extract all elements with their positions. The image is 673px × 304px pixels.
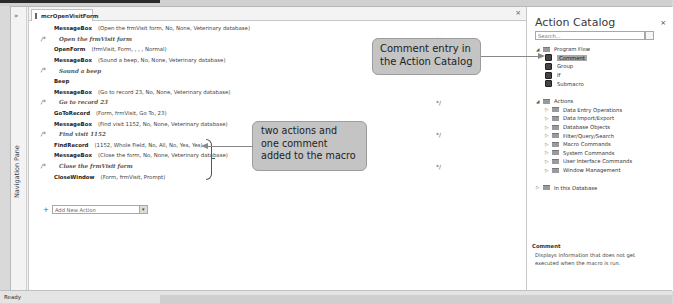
add-new-action-select[interactable]: Add New Action ▾ <box>52 205 148 214</box>
folder-icon <box>552 150 559 155</box>
chevron-down-icon[interactable]: ▾ <box>139 206 147 213</box>
tree-item-database-objects[interactable]: ▷Database Objects <box>536 123 671 132</box>
tree-label: User Interface Commands <box>563 158 632 164</box>
macro-action[interactable]: MessageBox(Open the frmVisit form, No, N… <box>29 23 526 34</box>
close-icon[interactable]: × <box>660 19 666 27</box>
action-icon <box>545 54 552 61</box>
bracket-tip <box>211 158 215 159</box>
folder-icon <box>552 168 559 173</box>
navigation-pane-label: Navigation Pane <box>13 122 27 222</box>
action-name: FindRecord <box>54 142 88 148</box>
tree-gap <box>536 174 671 183</box>
comment-text: Find visit 1152 <box>59 131 106 137</box>
macro-action[interactable]: CloseWindow(Form, frmVisit, Prompt) <box>29 171 526 182</box>
folder-icon <box>552 125 559 130</box>
macro-comment[interactable]: /*Go to record 23*/ <box>29 97 526 108</box>
macro-action[interactable]: Beep <box>29 76 526 87</box>
navigation-pane[interactable]: » Navigation Pane <box>11 7 29 291</box>
expand-nav-icon[interactable]: » <box>14 12 18 20</box>
status-text: Ready <box>4 294 21 300</box>
arrowhead-right <box>538 53 545 59</box>
tree-item-system-commands[interactable]: ▷System Commands <box>536 149 671 158</box>
collapsed-triangle-icon: ▷ <box>545 150 552 155</box>
status-bar: Ready <box>0 290 672 303</box>
ribbon-edge <box>0 0 160 3</box>
comment-text: Open the frmVisit form <box>59 36 132 42</box>
collapsed-triangle-icon: ▷ <box>545 116 552 121</box>
tree-group-in-this-database[interactable]: ▷In this Database <box>536 183 671 192</box>
tree-label: Program Flow <box>554 46 590 52</box>
tree-label: Filter/Query/Search <box>563 133 614 139</box>
tree-item-filter-query[interactable]: ▷Filter/Query/Search <box>536 131 671 140</box>
collapsed-triangle-icon: ▷ <box>545 133 552 138</box>
tree-item-comment[interactable]: Comment <box>536 54 671 63</box>
folder-icon <box>543 185 550 190</box>
comment-text: Sound a beep <box>59 68 101 74</box>
tree-label: Data Import/Export <box>563 115 614 121</box>
tree-item-submacro[interactable]: Submacro <box>536 79 671 88</box>
tree-label: Submacro <box>557 81 584 87</box>
callout-line-added <box>203 146 253 147</box>
folder-icon <box>552 142 559 147</box>
macro-action[interactable]: GoToRecord(Form, frmVisit, Go To, 23) <box>29 108 526 119</box>
comment-start: /* <box>41 98 46 105</box>
comment-start: /* <box>41 130 46 137</box>
tree-label: In this Database <box>554 185 597 191</box>
expanded-triangle-icon: ◢ <box>536 99 543 104</box>
action-name: MessageBox <box>54 121 92 127</box>
action-catalog-title: Action Catalog <box>535 16 615 29</box>
action-args: (Open the frmVisit form, No, None, Veter… <box>98 25 250 31</box>
action-name: OpenForm <box>54 46 85 52</box>
add-new-action-placeholder: Add New Action <box>55 207 96 213</box>
tree-item-data-import[interactable]: ▷Data Import/Export <box>536 114 671 123</box>
document-tab-bar: mcrOpenVisitForm × <box>29 7 526 21</box>
action-icon <box>545 72 552 79</box>
status-bar-shade <box>160 295 672 304</box>
comment-start: /* <box>41 35 46 42</box>
tree-group-actions[interactable]: ◢Actions <box>536 97 671 106</box>
comment-start: /* <box>41 66 46 73</box>
tree-item-macro-commands[interactable]: ▷Macro Commands <box>536 140 671 149</box>
tree-label: Window Management <box>563 167 620 173</box>
comment-text: Close the frmVisit form <box>59 163 133 169</box>
arrowhead-left <box>201 143 208 149</box>
add-icon: + <box>43 206 49 214</box>
tab-mcrOpenVisitForm[interactable]: mcrOpenVisitForm <box>31 9 93 21</box>
tree-item-window-management[interactable]: ▷Window Management <box>536 166 671 175</box>
expanded-triangle-icon: ◢ <box>536 47 543 52</box>
tree-label: Actions <box>554 98 573 104</box>
action-name: CloseWindow <box>54 174 95 180</box>
tree-item-if[interactable]: If <box>536 71 671 80</box>
catalog-search-input[interactable]: Search... <box>535 31 645 40</box>
action-name: MessageBox <box>54 152 92 158</box>
tree-label: If <box>557 72 560 78</box>
comment-end: */ <box>436 131 441 138</box>
folder-icon <box>543 99 550 104</box>
tree-label: Group <box>557 63 573 69</box>
action-name: Beep <box>54 78 69 84</box>
action-args: (Sound a beep, No, None, Veterinary data… <box>98 57 226 63</box>
tree-gap <box>536 88 671 97</box>
folder-icon <box>552 107 559 112</box>
search-button[interactable] <box>645 31 654 40</box>
action-args: (1152, Whole Field, No, All, No, Yes, Ye… <box>94 142 202 148</box>
comment-text: Go to record 23 <box>59 99 108 105</box>
close-tab-icon[interactable]: × <box>515 9 521 17</box>
tree-item-group[interactable]: Group <box>536 62 671 71</box>
action-name: MessageBox <box>54 57 92 63</box>
comment-start: /* <box>41 162 46 169</box>
folder-icon <box>552 116 559 121</box>
macro-action[interactable]: MessageBox(Go to record 23, No, None, Ve… <box>29 87 526 98</box>
action-name: GoToRecord <box>54 110 90 116</box>
catalog-tree: ◢Program Flow Comment Group If Submacro … <box>536 45 671 192</box>
macro-icon <box>35 13 37 19</box>
tree-label: System Commands <box>563 150 614 156</box>
action-name: MessageBox <box>54 25 92 31</box>
collapsed-triangle-icon: ▷ <box>545 159 552 164</box>
action-args: (Form, frmVisit, Prompt) <box>101 174 166 180</box>
tree-group-program-flow[interactable]: ◢Program Flow <box>536 45 671 54</box>
tree-item-data-entry[interactable]: ▷Data Entry Operations <box>536 106 671 115</box>
tab-label: mcrOpenVisitForm <box>41 13 99 19</box>
tree-label: Comment <box>557 55 587 61</box>
tree-item-ui-commands[interactable]: ▷User Interface Commands <box>536 157 671 166</box>
